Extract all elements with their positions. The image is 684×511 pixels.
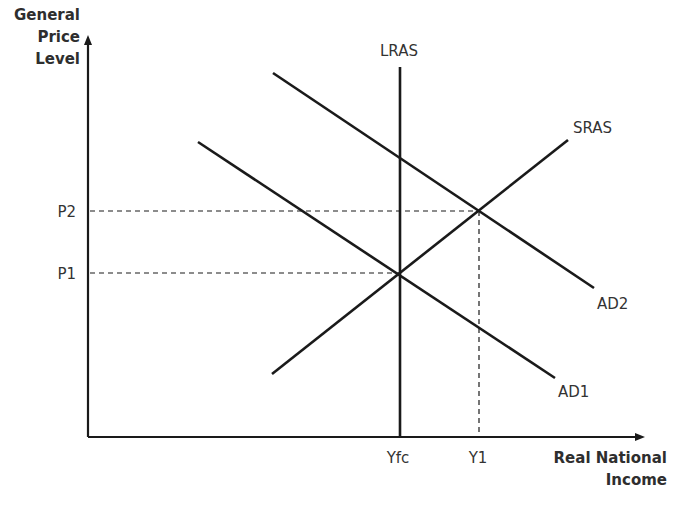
x-axis-title-line2: Income xyxy=(606,471,667,489)
y-axis-title-line1: General xyxy=(14,6,80,24)
lras-label: LRAS xyxy=(380,42,418,60)
curves xyxy=(198,67,594,437)
y1-label: Y1 xyxy=(468,449,488,467)
p1-label: P1 xyxy=(57,265,76,283)
p2-label: P2 xyxy=(57,203,76,221)
x-axis-title-line1: Real National xyxy=(554,449,667,467)
ad1-label: AD1 xyxy=(558,383,589,401)
guide-lines xyxy=(90,211,479,437)
axes xyxy=(88,40,640,437)
yfc-label: Yfc xyxy=(386,449,410,467)
sras-label: SRAS xyxy=(573,119,612,137)
ad2-label: AD2 xyxy=(597,295,628,313)
y-axis-title: General Price Level xyxy=(14,6,80,68)
ad-as-chart: General Price Level Real National Income… xyxy=(0,0,684,511)
ad1-line xyxy=(198,142,555,378)
y-axis-title-line2: Price xyxy=(37,28,80,46)
sras-line xyxy=(272,140,568,374)
x-axis-title: Real National Income xyxy=(554,449,667,489)
ad2-line xyxy=(273,73,594,288)
y-axis-title-line3: Level xyxy=(35,50,80,68)
